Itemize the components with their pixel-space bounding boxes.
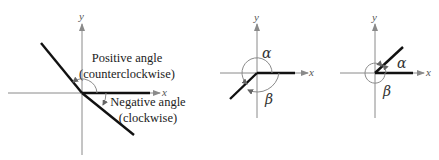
terminal-ray	[230, 73, 257, 99]
terminal-ray-positive	[41, 43, 82, 93]
positive-angle-label: Positive angle	[92, 51, 163, 65]
x-axis-label: x	[425, 66, 431, 78]
figure-coterminal-1: x y α β	[220, 11, 314, 118]
alpha-label: α	[397, 55, 407, 71]
figure-coterminal-2: x y α β	[340, 11, 431, 118]
x-axis-label: x	[308, 66, 314, 78]
beta-label: β	[382, 83, 391, 99]
beta-label: β	[264, 91, 273, 107]
figure-positive-negative: x y Positive angle (counterclockwise) Ne…	[8, 10, 186, 155]
negative-angle-arc	[103, 93, 106, 105]
y-axis-label: y	[371, 11, 377, 23]
angle-diagrams: x y Positive angle (counterclockwise) Ne…	[0, 0, 439, 160]
negative-angle-label: Negative angle	[110, 95, 186, 109]
y-axis-label: y	[78, 10, 84, 22]
y-axis-label: y	[253, 11, 259, 23]
negative-angle-sublabel: (clockwise)	[119, 111, 177, 125]
positive-angle-sublabel: (counterclockwise)	[79, 67, 175, 81]
alpha-label: α	[262, 45, 272, 61]
